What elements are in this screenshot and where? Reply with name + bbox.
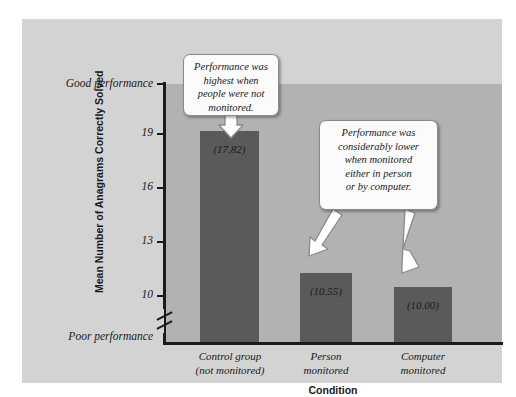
x-category-label-computer-monitored: Computer monitored <box>374 349 472 377</box>
callout-line-1: Performance was <box>326 126 431 140</box>
y-tick-label-16: 16 <box>129 180 153 192</box>
bar-value-control-group: (17.82) <box>200 143 259 155</box>
bar-value-person-monitored: (10.55) <box>300 285 352 297</box>
bar-computer-monitored[interactable]: (10.00) <box>394 287 452 343</box>
y-label-poor-performance: Poor performance <box>68 330 153 342</box>
y-tick-label-13: 13 <box>129 234 153 246</box>
x-axis-line <box>163 342 503 345</box>
y-tick-label-19: 19 <box>129 126 153 138</box>
y-axis-title: Mean Number of Anagrams Correctly Solved <box>93 93 105 293</box>
bar-control-group[interactable]: (17.82) <box>200 131 259 343</box>
cat-line-2: monitored <box>374 363 472 377</box>
y-tick-10 <box>157 295 165 297</box>
cat-line-1: Person <box>278 349 374 363</box>
y-tick-16 <box>157 187 165 189</box>
callout-lower-performance[interactable]: Performance was considerably lower when … <box>319 120 438 210</box>
callout-highest-performance[interactable]: Performance was highest when people were… <box>183 54 279 116</box>
callout-line-1: Performance was <box>190 60 272 74</box>
callout-line-4: either in person <box>326 167 431 181</box>
callout-line-5: or by computer. <box>326 180 431 194</box>
callout-line-2: considerably lower <box>326 140 431 154</box>
x-axis-title: Condition <box>164 384 502 396</box>
y-tick-top <box>157 83 165 85</box>
bar-person-monitored[interactable]: (10.55) <box>300 273 352 343</box>
y-tick-19 <box>157 133 165 135</box>
callout-line-3: people were not <box>190 87 272 101</box>
cat-line-1: Computer <box>374 349 472 363</box>
cat-line-2: monitored <box>278 363 374 377</box>
y-axis-break-icon <box>154 309 176 333</box>
x-category-label-control-group: Control group (not monitored) <box>180 349 280 377</box>
cat-line-1: Control group <box>180 349 280 363</box>
callout-line-4: monitored. <box>190 101 272 115</box>
y-tick-label-10: 10 <box>129 288 153 300</box>
figure-panel: (17.82) (10.55) (10.00) Good performance… <box>22 19 502 383</box>
cat-line-2: (not monitored) <box>180 363 280 377</box>
callout-line-2: highest when <box>190 74 272 88</box>
y-axis-line <box>163 82 166 344</box>
callout-line-3: when monitored <box>326 153 431 167</box>
bar-value-computer-monitored: (10.00) <box>394 299 452 311</box>
y-tick-13 <box>157 241 165 243</box>
x-category-label-person-monitored: Person monitored <box>278 349 374 377</box>
y-label-good-performance: Good performance <box>66 77 153 89</box>
